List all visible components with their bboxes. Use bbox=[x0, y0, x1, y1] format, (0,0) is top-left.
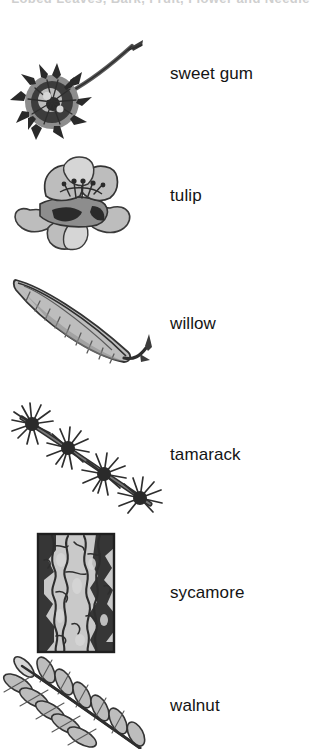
tamarack-branch bbox=[12, 403, 162, 513]
chart-row-sweet-gum: sweet gum bbox=[0, 16, 321, 132]
row-label-tulip: tulip bbox=[170, 187, 321, 206]
row-label-willow: willow bbox=[170, 315, 321, 334]
illustration-sycamore bbox=[0, 524, 170, 662]
seed-ball bbox=[10, 63, 92, 140]
row-label-walnut: walnut bbox=[170, 697, 321, 716]
illustration-tulip bbox=[0, 136, 170, 256]
row-label-sweet-gum: sweet gum bbox=[170, 65, 321, 84]
walnut-compound-leaf bbox=[1, 653, 149, 749]
tulip-flower bbox=[15, 157, 130, 249]
illustration-walnut bbox=[0, 664, 170, 749]
sycamore-bark-patch bbox=[38, 534, 115, 652]
illustration-willow bbox=[0, 268, 170, 380]
chart-row-willow: willow bbox=[0, 268, 321, 380]
clipped-header-text: Lobed Leaves, Bark, Fruit, Flower and Ne… bbox=[0, 0, 321, 7]
chart-row-tamarack: tamarack bbox=[0, 396, 321, 514]
chart-row-sycamore: sycamore bbox=[0, 524, 321, 662]
illustration-tamarack bbox=[0, 396, 170, 514]
chart-row-walnut: walnut bbox=[0, 664, 321, 749]
row-label-sycamore: sycamore bbox=[170, 584, 321, 603]
chart-row-tulip: tulip bbox=[0, 136, 321, 256]
willow-leaf bbox=[14, 280, 152, 363]
row-label-tamarack: tamarack bbox=[170, 446, 321, 465]
illustration-sweet-gum bbox=[0, 16, 170, 132]
